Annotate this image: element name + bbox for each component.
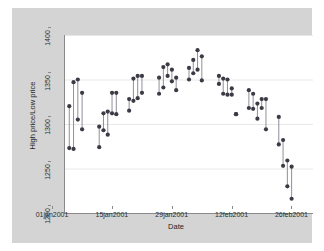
data-point-low	[187, 77, 191, 81]
data-point-high	[157, 76, 161, 80]
data-point-high	[161, 65, 165, 69]
data-point-high	[277, 115, 281, 119]
y-tick-label: 1300	[44, 116, 52, 138]
data-point-low	[225, 93, 229, 97]
data-point-high	[97, 125, 101, 129]
data-point-low	[234, 112, 238, 116]
data-point-high	[195, 48, 199, 52]
plot-canvas	[65, 35, 313, 213]
data-point-high	[174, 76, 178, 80]
data-point-high	[217, 74, 221, 78]
x-tick-label: 26feb2001	[275, 211, 308, 218]
data-point-high	[131, 77, 135, 81]
data-point-low	[260, 106, 264, 110]
data-point-high	[110, 91, 114, 95]
x-tick-label: 01jan2001	[36, 211, 69, 218]
data-point-high	[290, 165, 294, 169]
data-point-high	[76, 77, 80, 81]
data-point-low	[221, 92, 225, 96]
data-point-low	[161, 85, 165, 89]
data-point-high	[106, 109, 110, 113]
data-point-low	[281, 164, 285, 168]
data-point-low	[290, 197, 294, 201]
data-point-high	[255, 101, 259, 105]
data-point-low	[277, 142, 281, 146]
data-point-low	[174, 88, 178, 92]
data-point-high	[200, 54, 204, 58]
data-point-high	[80, 91, 84, 95]
x-tick-mark	[291, 206, 292, 209]
data-point-low	[76, 117, 80, 121]
y-tick-label: 1350	[44, 72, 52, 94]
data-point-high	[260, 97, 264, 101]
x-axis-title: Date	[168, 222, 184, 231]
data-point-low	[136, 96, 140, 100]
data-point-low	[251, 107, 255, 111]
x-tick-label: 15jan2001	[96, 211, 129, 218]
x-tick-label: 12feb2001	[215, 211, 248, 218]
gridlines	[65, 36, 313, 214]
data-point-high	[127, 97, 131, 101]
data-point-low	[247, 106, 251, 110]
data-point-low	[200, 78, 204, 82]
data-point-high	[247, 88, 251, 92]
chart-screenshot: High price/Low price 1200125013001350140…	[0, 0, 324, 251]
data-point-low	[114, 112, 118, 116]
data-point-high	[225, 77, 229, 81]
data-point-high	[114, 91, 118, 95]
data-point-high	[101, 111, 105, 115]
data-point-high	[264, 97, 268, 101]
data-point-low	[80, 127, 84, 131]
plot-area	[64, 35, 313, 214]
data-point-low	[157, 92, 161, 96]
data-point-low	[230, 93, 234, 97]
data-point-high	[67, 104, 71, 108]
data-point-low	[67, 146, 71, 150]
data-point-low	[101, 128, 105, 132]
y-axis-title: High price/Low price	[28, 27, 37, 205]
data-point-high	[71, 80, 75, 84]
data-point-high	[140, 74, 144, 78]
data-point-low	[264, 127, 268, 131]
x-tick-mark	[232, 206, 233, 209]
data-point-low	[106, 133, 110, 137]
data-point-high	[166, 62, 170, 66]
data-point-high	[170, 68, 174, 72]
data-point-low	[285, 184, 289, 188]
data-point-low	[131, 99, 135, 103]
data-point-low	[191, 71, 195, 75]
data-point-low	[170, 79, 174, 83]
data-point-high	[281, 138, 285, 142]
data-point-high	[251, 92, 255, 96]
data-point-high	[285, 158, 289, 162]
data-point-low	[140, 91, 144, 95]
graph-region: High price/Low price 1200125013001350140…	[12, 8, 312, 243]
x-tick-mark	[52, 206, 53, 209]
data-point-low	[110, 111, 114, 115]
y-tick-label: 1400	[44, 27, 52, 49]
data-point-low	[255, 117, 259, 121]
data-point-high	[221, 77, 225, 81]
y-tick-label: 1250	[44, 161, 52, 183]
data-point-high	[136, 74, 140, 78]
data-point-high	[191, 58, 195, 62]
data-point-high	[230, 86, 234, 90]
x-tick-mark	[172, 206, 173, 209]
data-point-low	[217, 82, 221, 86]
x-tick-mark	[112, 206, 113, 209]
data-point-low	[166, 74, 170, 78]
data-point-low	[97, 145, 101, 149]
data-point-low	[71, 147, 75, 151]
data-point-low	[127, 109, 131, 113]
x-tick-label: 29jan2001	[155, 211, 188, 218]
data-point-high	[187, 66, 191, 70]
data-point-low	[195, 68, 199, 72]
